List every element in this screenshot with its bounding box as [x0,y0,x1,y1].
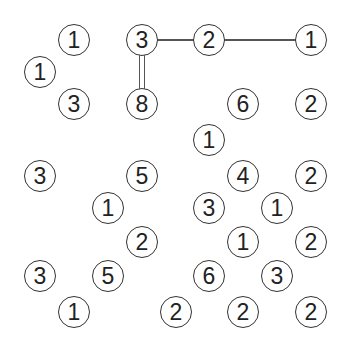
island-r5-c7[interactable]: 1 [261,192,293,224]
island-value: 1 [203,129,216,152]
island-value: 2 [136,231,149,254]
island-value: 3 [271,265,284,288]
island-value: 1 [68,29,81,52]
island-value: 1 [271,197,284,220]
island-r8-c6[interactable]: 2 [227,296,259,328]
island-value: 3 [34,265,47,288]
island-r7-c5[interactable]: 6 [193,260,225,292]
island-r6-c3[interactable]: 2 [126,226,158,258]
island-r4-c3[interactable]: 5 [126,160,158,192]
island-r0-c3[interactable]: 3 [126,24,158,56]
island-r7-c7[interactable]: 3 [261,260,293,292]
island-r5-c2[interactable]: 1 [92,192,124,224]
island-r7-c2[interactable]: 5 [92,260,124,292]
island-value: 3 [68,93,81,116]
island-r2-c3[interactable]: 8 [126,88,158,120]
island-r3-c5[interactable]: 1 [193,124,225,156]
island-value: 1 [102,197,115,220]
island-r7-c0[interactable]: 3 [24,260,56,292]
island-value: 6 [203,265,216,288]
island-r2-c6[interactable]: 6 [227,88,259,120]
island-value: 1 [34,61,47,84]
island-r6-c6[interactable]: 1 [227,226,259,258]
island-value: 5 [136,165,149,188]
island-value: 1 [68,301,81,324]
island-r4-c8[interactable]: 2 [295,160,327,192]
island-r8-c8[interactable]: 2 [295,296,327,328]
island-value: 1 [237,231,250,254]
island-value: 6 [237,93,250,116]
island-value: 8 [136,93,149,116]
island-value: 2 [305,301,318,324]
island-value: 2 [203,29,216,52]
island-value: 3 [203,197,216,220]
island-r0-c1[interactable]: 1 [58,24,90,56]
island-r0-c5[interactable]: 2 [193,24,225,56]
island-r8-c1[interactable]: 1 [58,296,90,328]
island-r6-c8[interactable]: 2 [295,226,327,258]
island-r1-c0[interactable]: 1 [24,56,56,88]
island-value: 4 [237,165,250,188]
island-r2-c8[interactable]: 2 [295,88,327,120]
island-value: 2 [305,93,318,116]
island-r4-c0[interactable]: 3 [24,160,56,192]
island-value: 1 [305,29,318,52]
island-r5-c5[interactable]: 3 [193,192,225,224]
puzzle-board: 1321138621354213121235631222 [0,0,347,350]
island-value: 2 [170,301,183,324]
island-r8-c4[interactable]: 2 [160,296,192,328]
island-value: 5 [102,265,115,288]
island-value: 2 [305,165,318,188]
island-value: 2 [305,231,318,254]
island-r4-c6[interactable]: 4 [227,160,259,192]
island-value: 3 [136,29,149,52]
island-r0-c8[interactable]: 1 [295,24,327,56]
island-value: 2 [237,301,250,324]
island-value: 3 [34,165,47,188]
island-r2-c1[interactable]: 3 [58,88,90,120]
